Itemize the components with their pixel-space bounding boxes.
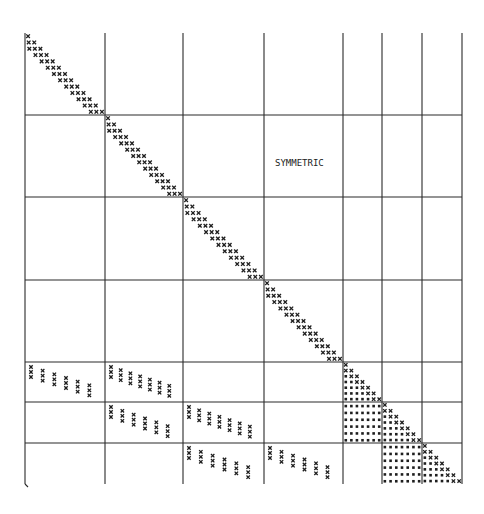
fill-in-dot: [384, 480, 387, 483]
x-mark: [291, 464, 294, 467]
fill-in-dot: [429, 462, 432, 465]
x-mark: [222, 243, 226, 247]
x-mark: [191, 211, 195, 215]
x-mark: [187, 415, 190, 418]
x-mark: [406, 427, 409, 430]
x-mark: [218, 415, 221, 418]
x-mark: [138, 385, 141, 388]
x-mark: [241, 262, 245, 266]
fill-in-dot: [401, 433, 404, 436]
x-mark: [113, 129, 117, 133]
x-mark: [64, 85, 68, 89]
x-mark: [279, 307, 283, 311]
fill-in-dot: [344, 386, 347, 389]
fill-in-dot: [435, 480, 438, 483]
x-mark: [320, 338, 324, 342]
x-mark: [88, 389, 91, 392]
x-mark: [39, 53, 43, 57]
x-mark: [149, 167, 153, 171]
x-mark: [203, 218, 207, 222]
x-mark: [113, 135, 117, 139]
x-mark: [132, 418, 135, 421]
fill-in-dot: [384, 459, 387, 462]
x-mark: [208, 422, 211, 425]
fill-in-dot: [401, 473, 404, 476]
x-mark: [155, 431, 158, 434]
x-mark: [238, 422, 241, 425]
x-mark: [155, 421, 158, 424]
x-mark: [148, 378, 151, 381]
x-mark: [191, 205, 195, 209]
fill-in-dot: [406, 466, 409, 469]
x-mark: [350, 375, 353, 378]
x-mark: [58, 72, 62, 76]
x-mark: [109, 365, 112, 368]
x-mark: [109, 370, 112, 373]
fill-in-dot: [406, 453, 409, 456]
fill-in-dot: [356, 432, 359, 435]
x-mark: [209, 224, 213, 228]
x-mark: [268, 456, 271, 459]
x-mark: [119, 368, 122, 371]
x-mark: [130, 142, 134, 146]
x-mark: [131, 148, 135, 152]
x-mark: [187, 446, 190, 449]
fill-in-dot: [412, 480, 415, 483]
fill-in-dot: [367, 439, 370, 442]
x-mark: [119, 373, 122, 376]
x-mark: [106, 116, 110, 120]
fill-in-dot: [378, 425, 381, 428]
x-mark: [229, 256, 233, 260]
x-mark: [297, 326, 301, 330]
x-mark: [435, 456, 438, 459]
x-mark: [166, 434, 169, 437]
x-mark: [253, 275, 257, 279]
x-mark: [280, 450, 283, 453]
x-mark: [109, 375, 112, 378]
fill-in-dot: [361, 405, 364, 408]
x-mark: [197, 414, 200, 417]
fill-in-dot: [344, 418, 347, 421]
matrix-grid: [25, 33, 462, 487]
x-mark: [109, 415, 112, 418]
x-mark: [199, 455, 202, 458]
fill-in-dot: [384, 446, 387, 449]
x-mark: [246, 475, 249, 478]
fill-in-dot: [429, 474, 432, 477]
x-mark: [95, 110, 99, 114]
fill-in-dot: [389, 459, 392, 462]
x-mark: [277, 294, 281, 298]
x-mark: [302, 319, 306, 323]
x-mark: [143, 427, 146, 430]
x-mark: [76, 380, 79, 383]
x-mark: [228, 423, 231, 426]
x-mark: [187, 405, 190, 408]
x-mark: [321, 351, 325, 355]
x-mark: [296, 313, 300, 317]
fill-in-dot: [418, 453, 421, 456]
x-mark: [278, 300, 282, 304]
x-mark: [314, 467, 317, 470]
fill-in-dot: [350, 381, 353, 384]
x-mark: [27, 41, 31, 45]
x-mark: [53, 383, 56, 386]
fill-in-dot: [378, 418, 381, 421]
x-mark: [412, 433, 415, 436]
fill-in-dot: [406, 473, 409, 476]
x-mark: [161, 179, 165, 183]
fill-in-dot: [424, 474, 427, 477]
x-mark: [94, 104, 98, 108]
x-mark: [168, 384, 171, 387]
x-mark: [148, 161, 152, 165]
x-mark: [71, 91, 75, 95]
fill-in-dot: [395, 433, 398, 436]
fill-in-dot: [406, 459, 409, 462]
x-mark: [121, 419, 124, 422]
x-mark: [33, 47, 37, 51]
fill-in-dot: [344, 381, 347, 384]
x-mark: [303, 463, 306, 466]
x-mark: [240, 256, 244, 260]
fill-in-dot: [356, 405, 359, 408]
x-mark: [118, 129, 122, 133]
x-mark: [28, 47, 32, 51]
